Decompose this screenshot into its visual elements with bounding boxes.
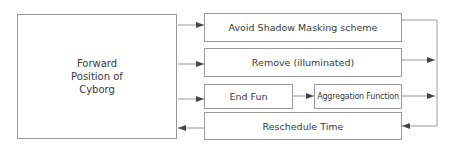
main-box-line-1: Forward <box>71 57 123 70</box>
end-fun-label: End Fun <box>229 91 267 102</box>
reschedule-time-box: Reschedule Time <box>204 112 402 140</box>
aggregation-label: Aggregation Function <box>317 92 399 101</box>
aggregation-function-box: Aggregation Function <box>314 84 402 109</box>
end-fun-box: End Fun <box>204 84 293 109</box>
main-box-line-3: Cyborg <box>71 83 123 96</box>
forward-position-box: Forward Position of Cyborg <box>17 14 177 139</box>
remove-illuminated-box: Remove (illuminated) <box>204 48 402 77</box>
main-box-line-2: Position of <box>71 70 123 83</box>
avoid-shadow-box: Avoid Shadow Masking scheme <box>204 13 402 42</box>
reschedule-label: Reschedule Time <box>263 121 344 132</box>
remove-label: Remove (illuminated) <box>252 57 354 68</box>
avoid-shadow-label: Avoid Shadow Masking scheme <box>229 22 378 33</box>
